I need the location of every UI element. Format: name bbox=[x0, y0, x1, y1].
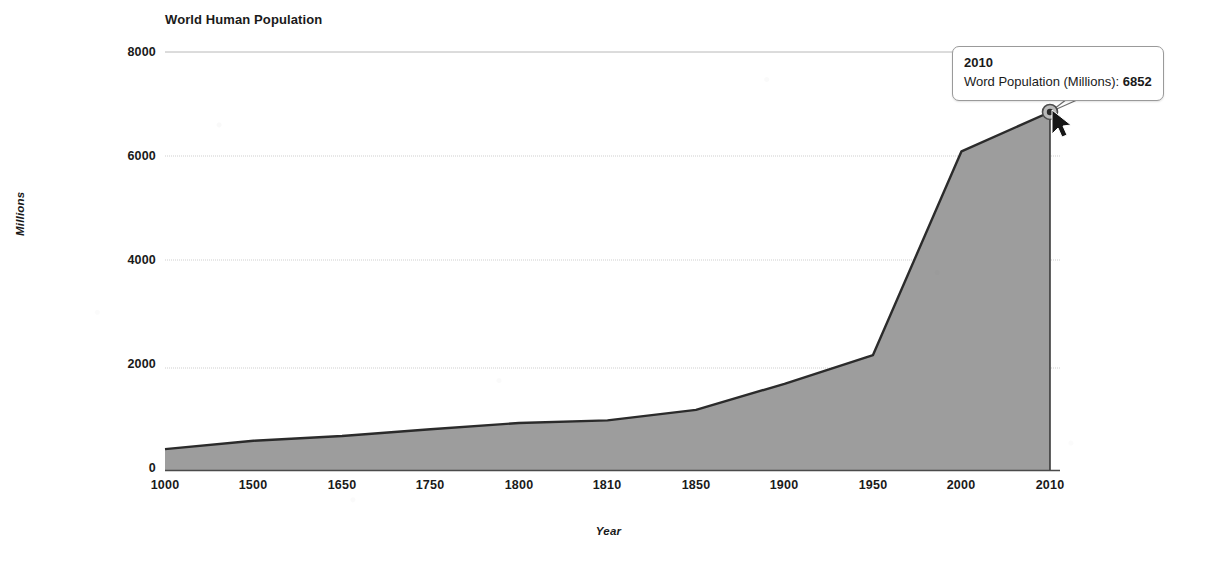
tooltip-series-label: Word Population (Millions): bbox=[964, 74, 1119, 89]
chart-tooltip: 2010 Word Population (Millions): 6852 bbox=[952, 46, 1164, 101]
tooltip-value: 6852 bbox=[1123, 74, 1152, 89]
tooltip-row: Word Population (Millions): 6852 bbox=[964, 73, 1152, 92]
area-series-fill bbox=[165, 112, 1050, 470]
tooltip-title: 2010 bbox=[964, 54, 1152, 73]
data-point-marker-2010[interactable] bbox=[1043, 104, 1058, 119]
chart-container: World Human Population Millions Year 800… bbox=[0, 0, 1217, 568]
